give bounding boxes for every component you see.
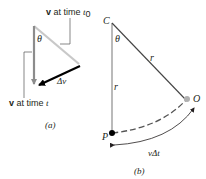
caption-a: (a) [45, 120, 56, 130]
label-v-t: v at time t [9, 98, 49, 108]
arc-length-arrow [114, 108, 194, 145]
delta-v-label: Δv [56, 76, 66, 86]
point-c-label: C [103, 15, 110, 26]
panel-b: C θ r r O P vΔt (b) [101, 15, 200, 176]
v-t0-vector [34, 26, 79, 64]
arc-length-label: vΔt [148, 148, 160, 158]
label-v-t0: v at time t0 [46, 7, 91, 19]
leader-line-v-t [24, 52, 32, 98]
point-p-label: P [101, 131, 108, 142]
theta-label-a: θ [37, 33, 42, 44]
panel-a: θ Δv v at time t0 v at time t (a) [9, 7, 91, 130]
velocity-diagram: θ Δv v at time t0 v at time t (a) C θ r … [0, 0, 206, 179]
radius-diagonal [112, 23, 186, 100]
point-p-dot [109, 130, 115, 136]
point-o-dot [184, 96, 190, 102]
radius-diag-label: r [150, 52, 154, 63]
point-o-label: O [193, 93, 200, 104]
caption-b: (b) [134, 166, 145, 176]
leader-line-v-t0 [60, 18, 70, 44]
dashed-arc-path [112, 100, 186, 133]
theta-label-b: θ [115, 33, 120, 44]
radius-vert-label: r [114, 81, 118, 92]
